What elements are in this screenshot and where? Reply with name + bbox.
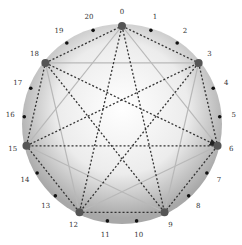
node-label: 14 bbox=[21, 176, 30, 184]
major-node bbox=[75, 208, 83, 216]
node-label: 11 bbox=[101, 231, 110, 239]
minor-node bbox=[218, 115, 222, 119]
sphere-disc bbox=[22, 24, 222, 224]
major-node bbox=[214, 142, 222, 150]
minor-node bbox=[35, 171, 39, 175]
minor-node bbox=[135, 219, 139, 223]
node-label: 10 bbox=[134, 231, 143, 239]
node-label: 9 bbox=[168, 221, 172, 229]
node-label: 8 bbox=[196, 202, 200, 210]
minor-node bbox=[54, 194, 58, 198]
minor-node bbox=[211, 86, 215, 90]
minor-node bbox=[187, 194, 191, 198]
node-label: 15 bbox=[8, 145, 17, 153]
node-label: 16 bbox=[6, 111, 15, 119]
node-label: 19 bbox=[54, 27, 63, 35]
node-label: 6 bbox=[229, 145, 234, 153]
major-node bbox=[22, 142, 30, 150]
node-label: 3 bbox=[207, 50, 211, 58]
node-label: 7 bbox=[217, 176, 221, 184]
major-node bbox=[195, 59, 203, 67]
node-label: 5 bbox=[231, 111, 235, 119]
node-label: 17 bbox=[13, 79, 22, 87]
major-node bbox=[118, 22, 126, 30]
major-node bbox=[161, 208, 169, 216]
major-node bbox=[41, 59, 49, 67]
diagram-canvas: 01234567891011121314151617181920 bbox=[0, 0, 242, 245]
node-label: 18 bbox=[30, 50, 39, 58]
node-label: 12 bbox=[69, 221, 78, 229]
minor-node bbox=[91, 29, 95, 33]
node-label: 1 bbox=[153, 13, 157, 21]
minor-node bbox=[205, 171, 209, 175]
node-label: 13 bbox=[41, 202, 50, 210]
node-label: 4 bbox=[224, 79, 229, 87]
node-label: 2 bbox=[183, 27, 187, 35]
node-label: 0 bbox=[120, 8, 124, 16]
minor-node bbox=[22, 115, 26, 119]
node-label: 20 bbox=[85, 13, 94, 21]
minor-node bbox=[29, 86, 33, 90]
minor-node bbox=[149, 29, 153, 33]
minor-node bbox=[175, 41, 179, 45]
minor-node bbox=[106, 219, 110, 223]
minor-node bbox=[65, 41, 69, 45]
star-polygon-diagram: 01234567891011121314151617181920 bbox=[0, 0, 242, 245]
